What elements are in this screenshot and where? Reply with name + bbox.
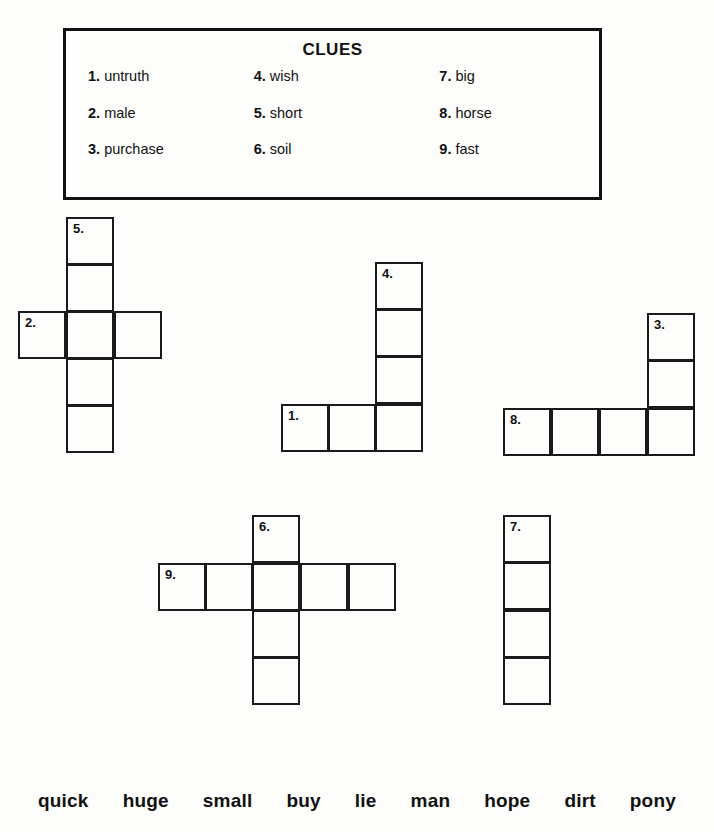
puzzle-cell[interactable] <box>205 563 253 611</box>
puzzle-cell[interactable] <box>503 657 551 705</box>
puzzle-cell[interactable] <box>375 309 423 357</box>
word-bank-word[interactable]: huge <box>123 790 169 812</box>
word-bank-word[interactable]: man <box>411 790 451 812</box>
puzzle-cell-numbered[interactable]: 2. <box>18 311 66 359</box>
puzzle-cell[interactable] <box>66 311 114 359</box>
puzzle-cell-numbered[interactable]: 6. <box>252 515 300 563</box>
puzzle-cell-numbered[interactable]: 4. <box>375 262 423 310</box>
puzzle-cell-number: 1. <box>288 409 299 422</box>
puzzle-cell[interactable] <box>503 610 551 658</box>
word-bank-word[interactable]: buy <box>286 790 320 812</box>
puzzle-cell-numbered[interactable]: 1. <box>281 404 329 452</box>
word-bank-word[interactable]: lie <box>355 790 377 812</box>
puzzle-cell-number: 3. <box>654 318 665 331</box>
puzzle-cell[interactable] <box>66 358 114 406</box>
word-bank-word[interactable]: hope <box>484 790 530 812</box>
puzzle-cell-number: 2. <box>25 316 36 329</box>
word-bank-word[interactable]: pony <box>630 790 676 812</box>
puzzle-cell[interactable] <box>252 657 300 705</box>
puzzle-cell-number: 9. <box>165 568 176 581</box>
puzzle-cell[interactable] <box>348 563 396 611</box>
word-bank-word[interactable]: quick <box>38 790 89 812</box>
puzzle-cell[interactable] <box>375 356 423 404</box>
puzzle-cell[interactable] <box>551 408 599 456</box>
puzzle-cell[interactable] <box>375 404 423 452</box>
puzzle-cell[interactable] <box>252 563 300 611</box>
puzzle-cell[interactable] <box>252 610 300 658</box>
puzzle-cell-number: 4. <box>382 267 393 280</box>
puzzle-cell[interactable] <box>647 408 695 456</box>
puzzle-cell[interactable] <box>300 563 348 611</box>
puzzle-cell-numbered[interactable]: 8. <box>503 408 551 456</box>
puzzle-cell[interactable] <box>503 562 551 610</box>
word-bank: quickhugesmallbuyliemanhopedirtpony <box>0 790 714 812</box>
puzzle-cell[interactable] <box>599 408 647 456</box>
puzzle-grids: 5.2.4.1.3.8.6.9.7. <box>0 0 714 760</box>
puzzle-cell-number: 8. <box>510 413 521 426</box>
puzzle-cell-number: 5. <box>73 222 84 235</box>
puzzle-cell[interactable] <box>328 404 376 452</box>
puzzle-cell-numbered[interactable]: 5. <box>66 217 114 265</box>
puzzle-cell-numbered[interactable]: 9. <box>158 563 206 611</box>
word-bank-word[interactable]: small <box>203 790 253 812</box>
word-bank-word[interactable]: dirt <box>564 790 595 812</box>
puzzle-cell[interactable] <box>66 264 114 312</box>
puzzle-cell-number: 6. <box>259 520 270 533</box>
puzzle-cell[interactable] <box>114 311 162 359</box>
puzzle-cell-numbered[interactable]: 3. <box>647 313 695 361</box>
puzzle-cell-number: 7. <box>510 520 521 533</box>
puzzle-cell[interactable] <box>66 405 114 453</box>
puzzle-cell[interactable] <box>647 360 695 408</box>
puzzle-cell-numbered[interactable]: 7. <box>503 515 551 563</box>
